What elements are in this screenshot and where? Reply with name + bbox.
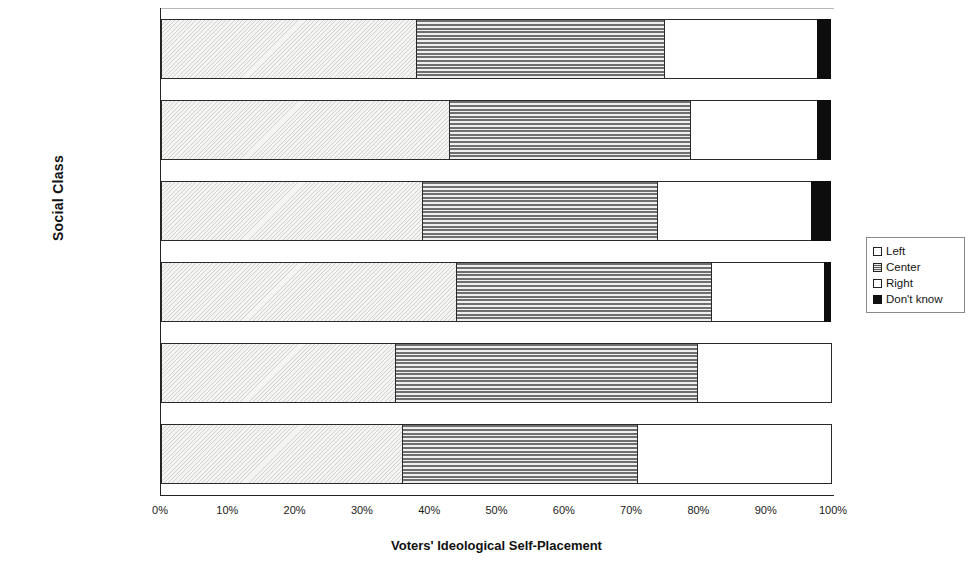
y-axis-tick-label — [12, 333, 152, 414]
stacked-bar — [161, 19, 834, 79]
bar-segment — [395, 343, 698, 403]
x-axis-tick-label: 40% — [418, 504, 440, 516]
x-axis-tick-label: 80% — [687, 504, 709, 516]
bar-slot — [161, 89, 834, 170]
bar-segment — [161, 19, 417, 79]
x-axis-tick-label: 60% — [553, 504, 575, 516]
bar-segment — [402, 424, 638, 484]
dont-know-swatch-icon — [873, 295, 882, 304]
bar-segment — [690, 100, 818, 160]
legend-item: Center — [873, 259, 960, 275]
bar-segment — [161, 424, 403, 484]
bar-slot — [161, 333, 834, 414]
legend-item: Left — [873, 243, 960, 259]
x-axis-title: Voters' Ideological Self-Placement — [160, 538, 833, 553]
bar-segment — [811, 181, 831, 241]
bar-segment — [161, 262, 457, 322]
y-axis-tick-label — [12, 89, 152, 170]
legend: LeftCenterRightDon't know — [866, 237, 965, 313]
bar-segment — [657, 181, 812, 241]
bar-segment — [422, 181, 658, 241]
stacked-bar — [161, 100, 834, 160]
bar-segment — [416, 19, 665, 79]
y-axis-tick-label — [12, 252, 152, 333]
x-axis-tick-label: 70% — [620, 504, 642, 516]
x-axis-tick-labels: 0%10%20%30%40%50%60%70%80%90%100% — [160, 498, 833, 520]
bar-segment — [456, 262, 712, 322]
legend-item: Right — [873, 275, 960, 291]
bars-container — [161, 8, 834, 495]
bar-segment — [664, 19, 819, 79]
bar-slot — [161, 252, 834, 333]
bar-segment — [697, 343, 832, 403]
bar-segment — [817, 19, 830, 79]
bar-slot — [161, 414, 834, 495]
legend-item: Don't know — [873, 291, 960, 307]
legend-item-label: Don't know — [886, 293, 943, 305]
bar-segment — [824, 262, 831, 322]
center-swatch-icon — [873, 263, 882, 272]
bar-segment — [161, 343, 397, 403]
legend-item-label: Center — [886, 261, 921, 273]
bar-segment — [711, 262, 825, 322]
x-axis-tick-label: 20% — [284, 504, 306, 516]
legend-item-label: Left — [886, 245, 905, 257]
x-axis-tick-label: 100% — [819, 504, 847, 516]
x-axis-tick-label: 30% — [351, 504, 373, 516]
bar-slot — [161, 8, 834, 89]
bar-segment — [161, 181, 423, 241]
stacked-bar — [161, 343, 834, 403]
y-axis-tick-label — [12, 170, 152, 251]
legend-item-label: Right — [886, 277, 913, 289]
bar-segment — [161, 100, 450, 160]
stacked-bar — [161, 181, 834, 241]
stacked-bar — [161, 262, 834, 322]
x-axis-tick-label: 0% — [152, 504, 168, 516]
x-axis-tick-label: 10% — [216, 504, 238, 516]
bar-segment — [817, 100, 830, 160]
plot-area — [160, 8, 834, 496]
stacked-bar — [161, 424, 834, 484]
x-axis-tick-label: 90% — [755, 504, 777, 516]
y-axis-tick-label — [12, 414, 152, 495]
y-axis-tick-label — [12, 8, 152, 89]
right-swatch-icon — [873, 279, 882, 288]
bar-segment — [637, 424, 832, 484]
x-axis-tick-label: 50% — [485, 504, 507, 516]
y-axis-tick-labels — [12, 8, 152, 495]
left-swatch-icon — [873, 247, 882, 256]
bar-segment — [449, 100, 691, 160]
bar-slot — [161, 170, 834, 251]
